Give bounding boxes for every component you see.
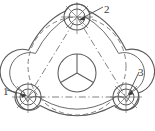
callout-label-1: 1: [3, 85, 9, 97]
callout-label-3: 3: [138, 66, 144, 78]
technical-drawing-canvas: 1 2 3: [0, 0, 155, 131]
technical-drawing-figure: 1 2 3: [0, 0, 155, 131]
callout-label-2: 2: [104, 3, 110, 15]
